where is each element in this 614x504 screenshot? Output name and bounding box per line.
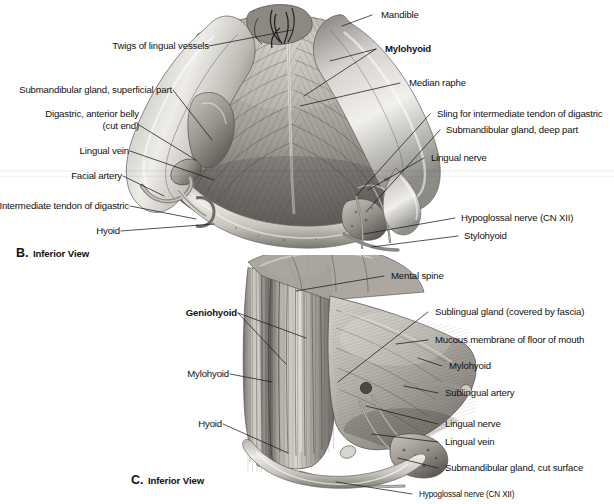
label-mylohyoid-c-left: Mylohyoid bbox=[187, 368, 229, 380]
label-stylohyoid: Stylohyoid bbox=[464, 230, 507, 242]
label-geniohyoid: Geniohyoid bbox=[186, 307, 237, 319]
label-digastric-cut-end: (cut end) bbox=[102, 120, 139, 132]
label-mylohyoid-b: Mylohyoid bbox=[385, 43, 431, 55]
caption-panel-c: C. Inferior View bbox=[131, 470, 204, 488]
label-hyoid-c: Hyoid bbox=[198, 418, 222, 430]
label-lingual-nerve-c: Lingual nerve bbox=[445, 418, 501, 430]
label-mandible: Mandible bbox=[381, 9, 419, 21]
caption-panel-b-text: Inferior View bbox=[33, 248, 89, 259]
leader-stylohyoid bbox=[372, 236, 458, 247]
label-digastric-anterior-belly: Digastric, anterior belly bbox=[45, 108, 139, 120]
label-mucous-membrane-of-floor-of-mouth: Mucous membrane of floor of mouth bbox=[435, 334, 584, 346]
caption-panel-b: B. Inferior View bbox=[16, 243, 89, 261]
label-lingual-vein-b: Lingual vein bbox=[80, 145, 129, 157]
caption-panel-b-letter: B. bbox=[16, 246, 29, 260]
label-mylohyoid-c-right: Mylohyoid bbox=[449, 360, 491, 372]
label-hypoglossal-nerve-c: Hypoglossal nerve (CN XII) bbox=[419, 489, 514, 501]
label-lingual-vein-c: Lingual vein bbox=[445, 436, 494, 448]
label-submandibular-gland-superficial-part: Submandibular gland, superficial part bbox=[19, 84, 172, 96]
label-sublingual-gland-covered-by-fascia: Sublingual gland (covered by fascia) bbox=[435, 306, 584, 318]
label-lingual-nerve-b: Lingual nerve bbox=[431, 152, 487, 164]
label-intermediate-tendon-of-digastric: Intermediate tendon of digastric bbox=[0, 200, 129, 212]
caption-panel-c-text: Inferior View bbox=[148, 475, 204, 486]
label-median-raphe: Median raphe bbox=[409, 77, 466, 89]
anatomy-figure: Twigs of lingual vessels Submandibular g… bbox=[0, 0, 614, 504]
label-hyoid-b: Hyoid bbox=[96, 225, 120, 237]
anatomy-artwork bbox=[0, 0, 614, 504]
label-twigs-of-lingual-vessels: Twigs of lingual vessels bbox=[112, 40, 209, 52]
caption-panel-c-letter: C. bbox=[131, 473, 144, 487]
label-sublingual-artery: Sublingual artery bbox=[445, 387, 514, 399]
label-submandibular-gland-deep-part: Submandibular gland, deep part bbox=[446, 124, 578, 136]
label-mental-spine: Mental spine bbox=[391, 270, 444, 282]
label-hypoglossal-nerve-b: Hypoglossal nerve (CN XII) bbox=[461, 212, 573, 224]
label-facial-artery: Facial artery bbox=[71, 170, 122, 182]
label-sling-for-intermediate-tendon-of-digastric: Sling for intermediate tendon of digastr… bbox=[437, 108, 602, 120]
label-submandibular-gland-cut-surface: Submandibular gland, cut surface bbox=[445, 462, 583, 474]
